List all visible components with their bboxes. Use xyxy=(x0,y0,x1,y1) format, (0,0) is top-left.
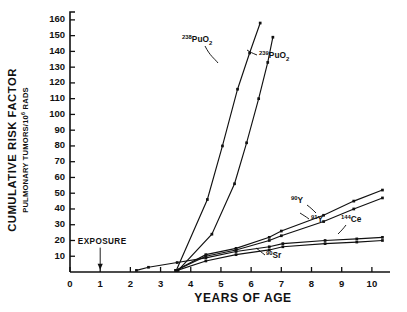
series-label-pu238: 238PuO2 xyxy=(182,34,213,46)
data-point xyxy=(233,182,236,185)
y-axis-sub-text-b: RADS xyxy=(21,87,30,112)
figure-container: 102030405060708090100110120130140150160 … xyxy=(0,0,407,312)
data-point xyxy=(176,261,179,264)
label-element: Y xyxy=(298,195,304,205)
x-tick-label: 9 xyxy=(339,278,344,289)
y-axis-title-main: CUMULATIVE RISK FACTOR xyxy=(6,68,18,232)
x-axis-ticks: 012345678910 xyxy=(67,267,377,289)
x-tick-label: 4 xyxy=(188,278,194,289)
data-point xyxy=(176,269,179,272)
y-tick-label: 50 xyxy=(54,187,65,198)
y-tick-label: 140 xyxy=(49,45,65,56)
series-144Ce xyxy=(135,236,384,272)
y-tick-label: 90 xyxy=(54,124,65,135)
data-point xyxy=(352,208,355,211)
label-element: PuO xyxy=(192,34,210,44)
y-tick-label: 150 xyxy=(49,29,65,40)
data-point xyxy=(280,230,283,233)
annotation-y90: 90Y xyxy=(291,195,316,213)
data-point xyxy=(147,266,150,269)
data-point xyxy=(235,250,238,253)
y-axis-title-group: CUMULATIVE RISK FACTOR xyxy=(6,68,18,232)
series-label-ce144: 144Ce xyxy=(341,214,362,224)
data-point xyxy=(352,200,355,203)
series-label-y90: 90Y xyxy=(291,195,304,205)
data-point xyxy=(381,189,384,192)
data-point xyxy=(268,239,271,242)
x-axis-title: YEARS OF AGE xyxy=(194,291,291,305)
data-point xyxy=(355,241,358,244)
leader-line-ce144 xyxy=(338,225,346,234)
label-element: PuO xyxy=(269,50,287,60)
label-subscript: 2 xyxy=(209,40,213,46)
series-label-sr90: 90Sr xyxy=(266,250,282,260)
annotation-pu238: 238PuO2 xyxy=(182,34,218,63)
x-tick-label: 0 xyxy=(67,278,72,289)
data-point xyxy=(257,97,260,100)
y-tick-label: 160 xyxy=(49,13,65,24)
series-line xyxy=(178,37,273,270)
x-tick-label: 1 xyxy=(98,278,104,289)
data-point xyxy=(381,236,384,239)
annotation-pu239: 239PuO2 xyxy=(247,50,290,62)
leader-line-y90 xyxy=(307,205,316,213)
data-point xyxy=(204,260,207,263)
annotation-ce144: 144Ce xyxy=(338,214,362,234)
data-point xyxy=(272,36,275,39)
x-tick-label: 8 xyxy=(309,278,314,289)
series-label-y91: 91Y xyxy=(311,214,324,224)
exposure-arrowhead-icon xyxy=(98,264,103,270)
data-point xyxy=(324,239,327,242)
data-point xyxy=(324,242,327,245)
y-tick-label: 100 xyxy=(49,108,65,119)
y-tick-label: 80 xyxy=(54,139,65,150)
series-238PuO2 xyxy=(175,22,262,272)
y-tick-label: 120 xyxy=(49,76,65,87)
data-point xyxy=(135,269,138,272)
y-axis-subtitle-group: PULMONARY TUMORS/106 RADS xyxy=(20,87,30,213)
label-subscript: 2 xyxy=(286,56,290,62)
exposure-label: EXPOSURE xyxy=(78,237,127,246)
data-point xyxy=(235,253,238,256)
data-point xyxy=(211,233,214,236)
label-element: Ce xyxy=(351,214,362,224)
x-tick-label: 7 xyxy=(279,278,284,289)
axes xyxy=(70,12,390,272)
y-axis-ticks: 102030405060708090100110120130140150160 xyxy=(49,13,75,260)
y-tick-label: 60 xyxy=(54,171,65,182)
x-tick-label: 3 xyxy=(158,278,163,289)
annotation-sr90: 90Sr xyxy=(256,248,282,260)
series-annotation-layer: 238PuO2239PuO290Y91Y144Ce90Sr xyxy=(182,34,362,260)
y-tick-label: 40 xyxy=(54,202,65,213)
x-tick-label: 6 xyxy=(248,278,253,289)
series-layer xyxy=(135,22,384,272)
data-point xyxy=(266,61,269,64)
series-line xyxy=(176,23,260,270)
label-element: Y xyxy=(318,214,324,224)
data-point xyxy=(281,245,284,248)
x-tick-label: 10 xyxy=(367,278,378,289)
y-tick-label: 110 xyxy=(50,92,65,103)
y-tick-label: 130 xyxy=(49,61,65,72)
y-tick-label: 10 xyxy=(54,250,65,261)
x-tick-label: 5 xyxy=(218,278,224,289)
data-point xyxy=(280,234,283,237)
leader-line-pu238 xyxy=(205,46,218,63)
data-point xyxy=(355,238,358,241)
data-point xyxy=(221,145,224,148)
x-tick-label: 2 xyxy=(128,278,133,289)
data-point xyxy=(381,239,384,242)
data-point xyxy=(245,141,248,144)
data-point xyxy=(381,197,384,200)
y-axis-title-sub: PULMONARY TUMORS/106 RADS xyxy=(20,87,30,213)
data-point xyxy=(259,22,262,25)
y-tick-label: 30 xyxy=(54,218,65,229)
data-point xyxy=(236,88,239,91)
y-tick-label: 20 xyxy=(54,234,65,245)
data-point xyxy=(206,198,209,201)
y-axis-sub-text-a: PULMONARY TUMORS/10 xyxy=(21,115,30,213)
data-point xyxy=(268,236,271,239)
exposure-annotation: EXPOSURE xyxy=(78,237,127,270)
data-point xyxy=(204,256,207,259)
data-point xyxy=(268,245,271,248)
